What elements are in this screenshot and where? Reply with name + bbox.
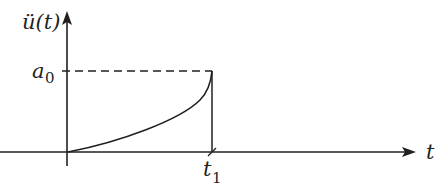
a0-label-base: a	[32, 59, 45, 83]
t1-label-base: t	[203, 157, 212, 181]
t1-label-subscript: 1	[212, 169, 222, 187]
a0-label-subscript: 0	[45, 69, 55, 87]
x-axis-label: t	[426, 140, 435, 164]
acceleration-curve	[68, 71, 212, 152]
acceleration-pulse-diagram: ü(t) t a 0 t 1	[0, 0, 448, 190]
y-axis-label: ü(t)	[22, 10, 60, 34]
diagram-svg: ü(t) t a 0 t 1	[0, 0, 448, 190]
